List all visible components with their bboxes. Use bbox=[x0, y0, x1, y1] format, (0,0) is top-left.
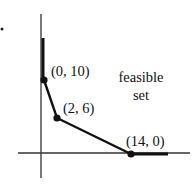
vertex-point-2-6 bbox=[53, 114, 60, 121]
region-label-feasible: feasible bbox=[118, 69, 163, 85]
vertex-point-14-0 bbox=[127, 150, 134, 157]
vertex-label-0-10: (0, 10) bbox=[51, 63, 90, 80]
bullet-dot bbox=[1, 28, 4, 31]
vertex-point-0-10 bbox=[40, 76, 47, 83]
feasible-set-diagram: (0, 10) (2, 6) (14, 0) feasible set bbox=[0, 0, 195, 192]
vertex-label-2-6: (2, 6) bbox=[63, 100, 95, 117]
region-label-set: set bbox=[133, 87, 149, 103]
vertex-label-14-0: (14, 0) bbox=[126, 133, 165, 150]
